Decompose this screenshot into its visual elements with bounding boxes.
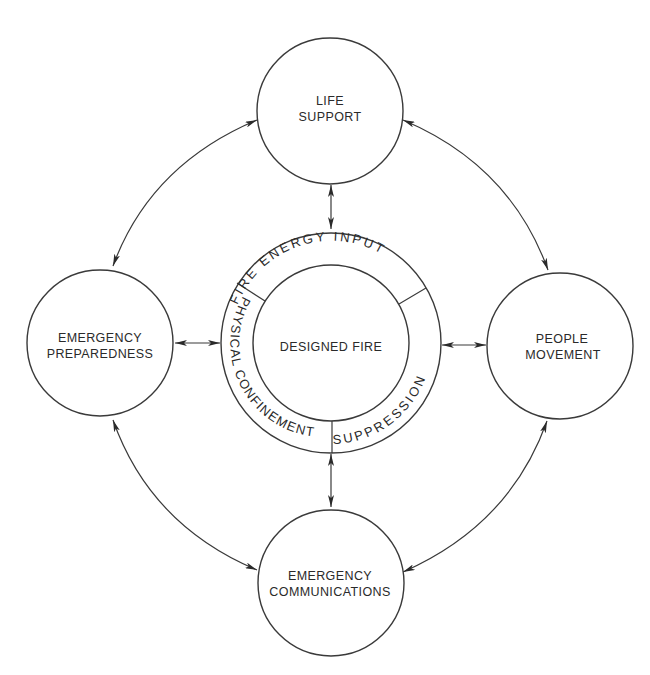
node-emergency-communications: EMERGENCY COMMUNICATIONS — [258, 510, 404, 656]
connector-life-support-people-movement — [403, 120, 548, 270]
node-label-line: SUPPORT — [299, 110, 362, 124]
connector-life-support-preparedness — [113, 120, 257, 266]
node-label-line: MOVEMENT — [525, 348, 600, 362]
node-emergency-preparedness: EMERGENCY PREPAREDNESS — [27, 270, 173, 416]
node-label-line: EMERGENCY — [58, 331, 142, 345]
node-life-support: LIFE SUPPORT — [257, 38, 403, 184]
node-label-line: COMMUNICATIONS — [269, 585, 390, 599]
node-people-movement: PEOPLE MOVEMENT — [487, 273, 633, 419]
node-designed-fire: FIRE ENERGY INPUT SUPPRESSION PHYSICAL C… — [221, 229, 441, 453]
node-label-line: EMERGENCY — [288, 569, 372, 583]
node-label-line: PEOPLE — [536, 332, 588, 346]
node-label-line: LIFE — [316, 94, 344, 108]
connector-preparedness-communications — [113, 420, 257, 570]
connector-people-movement-communications — [403, 421, 547, 572]
fire-safety-diagram: LIFE SUPPORT EMERGENCY PREPAREDNESS PEOP… — [0, 0, 650, 675]
node-label-line: PREPAREDNESS — [47, 347, 154, 361]
center-label: DESIGNED FIRE — [280, 340, 382, 354]
